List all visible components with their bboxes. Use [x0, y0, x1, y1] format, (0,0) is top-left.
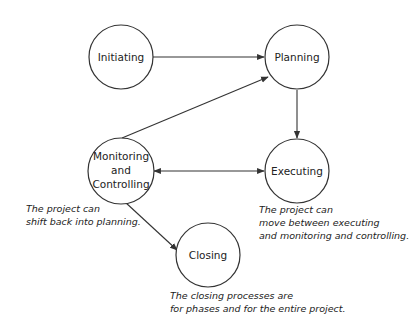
node-planning: Planning — [265, 25, 329, 89]
note-closing: The closing processes are for phases and… — [170, 290, 346, 314]
note-executing-line3: and monitoring and controlling. — [259, 230, 409, 241]
note-monitoring: The project can shift back into planning… — [26, 203, 141, 227]
node-initiating: Initiating — [89, 25, 153, 89]
node-closing: Closing — [176, 223, 240, 287]
note-executing-line2: move between executing — [259, 217, 380, 228]
note-monitoring-line1: The project can — [26, 203, 100, 214]
node-executing-label: Executing — [271, 165, 323, 177]
note-executing-line1: The project can — [259, 204, 333, 215]
node-monitoring-label-line2: and — [111, 164, 131, 176]
note-closing-line2: for phases and for the entire project. — [170, 303, 346, 314]
node-monitoring-and-controlling: Monitoring and Controlling — [88, 138, 154, 204]
process-diagram: Initiating Planning Monitoring and Contr… — [0, 0, 411, 321]
node-executing: Executing — [265, 139, 329, 203]
node-monitoring-label-line1: Monitoring — [93, 150, 149, 162]
node-monitoring-label-line3: Controlling — [92, 178, 149, 190]
note-closing-line1: The closing processes are — [170, 290, 293, 301]
node-closing-label: Closing — [189, 249, 227, 261]
note-executing: The project can move between executing a… — [259, 204, 409, 241]
node-planning-label: Planning — [274, 51, 319, 63]
edge-monitoring-to-planning — [122, 77, 268, 138]
node-initiating-label: Initiating — [98, 51, 145, 63]
note-monitoring-line2: shift back into planning. — [26, 216, 141, 227]
